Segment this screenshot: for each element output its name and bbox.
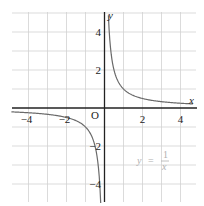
y-tick-label: −2 <box>89 140 101 152</box>
x-tick-label: 4 <box>178 113 184 125</box>
equation-numerator: 1 <box>163 149 168 160</box>
x-axis-label: x <box>188 94 194 106</box>
equation-lhs: y <box>136 155 142 166</box>
hyperbola-plot: −4−22442−2−4 x y O y = 1 x <box>0 0 204 206</box>
axes <box>12 12 197 202</box>
equation-annotation: y = 1 x <box>136 149 169 172</box>
x-tick-label: 2 <box>140 113 146 125</box>
y-tick-label: −4 <box>89 178 101 190</box>
y-tick-label: 2 <box>96 64 102 76</box>
equation-equals: = <box>148 155 154 166</box>
x-tick-label: −4 <box>21 113 33 125</box>
origin-label: O <box>91 109 99 121</box>
x-tick-label: −2 <box>59 113 71 125</box>
curve-group <box>11 15 192 203</box>
equation-denominator: x <box>161 161 167 172</box>
y-tick-label: 4 <box>96 26 102 38</box>
y-axis-label: y <box>107 9 113 21</box>
curve-branch-negative <box>11 112 100 203</box>
